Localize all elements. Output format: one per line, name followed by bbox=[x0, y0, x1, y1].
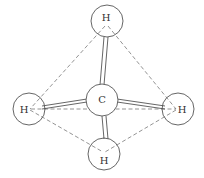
bond-c-h2 bbox=[42, 99, 87, 109]
atom-h1-label: H bbox=[102, 12, 111, 23]
atom-h3-label: H bbox=[178, 104, 187, 115]
atom-c-label: C bbox=[98, 94, 106, 105]
atom-h4-label: H bbox=[100, 155, 109, 166]
methane-tetrahedron-diagram: C H H H H bbox=[0, 0, 204, 178]
atom-h2-circle bbox=[13, 93, 45, 125]
bond-c-h4 bbox=[102, 116, 108, 139]
atom-h2-label: H bbox=[20, 104, 29, 115]
bond-c-h3 bbox=[117, 99, 165, 109]
bond-c-h1 bbox=[100, 37, 108, 85]
edge-h1-h3 bbox=[108, 26, 176, 109]
